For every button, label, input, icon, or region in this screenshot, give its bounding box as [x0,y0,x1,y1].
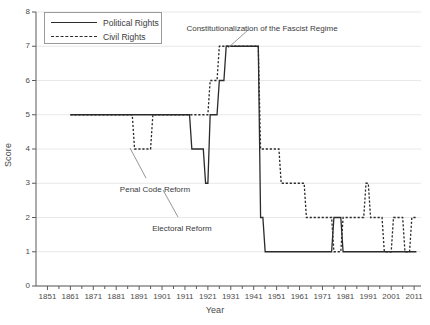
axis-ticks [32,12,414,290]
legend-label-civil-rights: Civil Rights [103,32,146,42]
annotation-label: Penal Code Reform [120,185,190,194]
legend-swatch-dashed [51,36,97,37]
legend-swatch-solid [51,22,97,23]
chart-figure: Year Score 18511861187118811891190119111… [0,0,430,325]
y-tick-label: 5 [6,110,30,119]
legend-label-political-rights: Political Rights [103,18,159,28]
y-tick-label: 7 [6,41,30,50]
y-tick-label: 2 [6,213,30,222]
legend: Political Rights Civil Rights [44,12,162,44]
y-tick-label: 3 [6,178,30,187]
y-tick-label: 8 [6,7,30,16]
plot-canvas [0,0,430,325]
legend-item-political-rights: Political Rights [51,16,159,29]
x-tick-label: 2011 [394,292,430,301]
y-axis-title: Score [3,125,13,185]
y-tick-label: 4 [6,144,30,153]
annotation-label: Constitutionalization of the Fascist Reg… [186,24,337,33]
y-tick-label: 6 [6,76,30,85]
annotation-label: Electoral Reform [152,224,212,233]
legend-item-civil-rights: Civil Rights [51,30,146,43]
gridlines [36,12,421,286]
y-tick-label: 0 [6,281,30,290]
y-tick-label: 1 [6,247,30,256]
x-axis-title: Year [0,305,430,315]
